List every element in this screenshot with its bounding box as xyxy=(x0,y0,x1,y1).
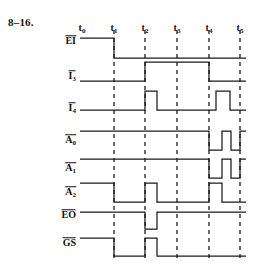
waveform-GS xyxy=(80,238,246,256)
waveform-A1 xyxy=(80,159,246,178)
waveform-A0 xyxy=(80,131,246,150)
timing-diagram-figure: 8–16. t0t1t2t3t4t5 EII3I4A0A1A2EOGS xyxy=(0,0,259,270)
waveform-I4 xyxy=(80,91,246,110)
waveform-EO xyxy=(80,212,246,229)
waveform-I3 xyxy=(80,62,246,81)
signal-waveforms xyxy=(80,38,246,256)
waveform-canvas xyxy=(0,0,259,270)
waveform-A2 xyxy=(80,183,246,202)
waveform-EI xyxy=(80,38,246,58)
time-marker-lines xyxy=(114,30,240,262)
